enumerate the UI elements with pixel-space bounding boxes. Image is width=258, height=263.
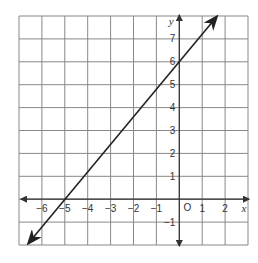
y-tick-label: 7 xyxy=(170,33,176,44)
y-tick-label: 4 xyxy=(170,102,176,113)
x-axis-label: x xyxy=(241,202,247,214)
origin-label: O xyxy=(183,202,191,213)
y-tick-label: 6 xyxy=(170,56,176,67)
x-tick-label: 1 xyxy=(199,203,205,214)
y-tick-label: 1 xyxy=(170,171,176,182)
x-tick-label: −2 xyxy=(128,203,140,214)
y-tick-label: 2 xyxy=(170,148,176,159)
y-tick-label: −1 xyxy=(164,217,176,228)
y-axis-label: y xyxy=(168,15,174,27)
x-tick-label: −1 xyxy=(151,203,163,214)
coordinate-plane: −6−5−4−3−2−1127654321−1xyO xyxy=(0,0,258,263)
x-tick-label: −4 xyxy=(82,203,94,214)
x-tick-label: −6 xyxy=(36,203,48,214)
y-tick-label: 3 xyxy=(170,125,176,136)
y-tick-label: 5 xyxy=(170,79,176,90)
x-tick-label: 2 xyxy=(222,203,228,214)
x-tick-label: −3 xyxy=(105,203,117,214)
